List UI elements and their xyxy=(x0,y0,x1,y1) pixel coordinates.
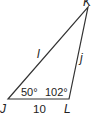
side-label-jl: 10 xyxy=(33,103,46,115)
side-label-l: l xyxy=(37,47,40,61)
triangle-diagram: K J L l j 10 50° 102° xyxy=(0,0,98,116)
angle-label-l: 102° xyxy=(45,86,68,98)
vertex-label-k: K xyxy=(83,0,92,9)
vertex-label-j: J xyxy=(0,102,7,116)
vertex-label-l: L xyxy=(64,102,71,116)
angle-label-j: 50° xyxy=(21,86,38,98)
